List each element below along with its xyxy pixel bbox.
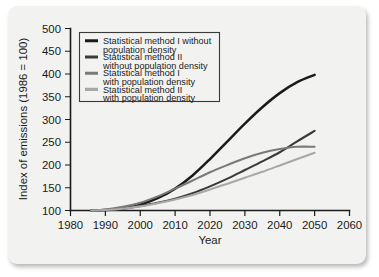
x-axis-title: Year (198, 234, 221, 246)
legend-label-4-line2: with population density (102, 93, 195, 103)
x-tick-label: 1990 (93, 219, 118, 231)
x-tick-label: 1980 (58, 219, 83, 231)
y-axis-title: Index of emissions (1986 = 100) (17, 38, 29, 201)
y-axis-ticks (65, 29, 71, 211)
y-tick-label: 400 (42, 68, 61, 80)
y-tick-label: 300 (42, 114, 61, 126)
emissions-line-chart: 100150200250300350400450500 Index of emi… (8, 6, 366, 264)
chart-legend: Statistical method I withoutpopulation d… (80, 33, 220, 104)
x-tick-label: 2030 (232, 219, 257, 231)
y-tick-label: 150 (42, 182, 61, 194)
y-tick-label: 350 (42, 91, 61, 103)
x-tick-label: 2050 (302, 219, 327, 231)
x-axis-ticks (71, 211, 350, 217)
x-axis-group: 198019902000201020202030204020502060 Yea… (58, 211, 362, 247)
x-axis-tick-labels: 198019902000201020202030204020502060 (58, 219, 362, 231)
x-tick-label: 2010 (162, 219, 187, 231)
series-line-4 (91, 153, 314, 211)
y-tick-label: 450 (42, 45, 61, 57)
x-tick-label: 2040 (267, 219, 292, 231)
y-tick-label: 100 (42, 205, 61, 217)
series-line-3 (91, 147, 314, 211)
x-tick-label: 2060 (337, 219, 362, 231)
y-axis-group: 100150200250300350400450500 Index of emi… (17, 23, 71, 217)
y-tick-label: 250 (42, 136, 61, 148)
chart-plot-area: 100150200250300350400450500 Index of emi… (8, 6, 366, 264)
y-tick-label: 200 (42, 159, 61, 171)
figure-card: 100150200250300350400450500 Index of emi… (8, 6, 366, 264)
series-line-2 (91, 131, 314, 211)
x-tick-label: 2020 (197, 219, 222, 231)
y-tick-label: 500 (42, 23, 61, 35)
y-axis-tick-labels: 100150200250300350400450500 (42, 23, 61, 217)
x-tick-label: 2000 (128, 219, 153, 231)
